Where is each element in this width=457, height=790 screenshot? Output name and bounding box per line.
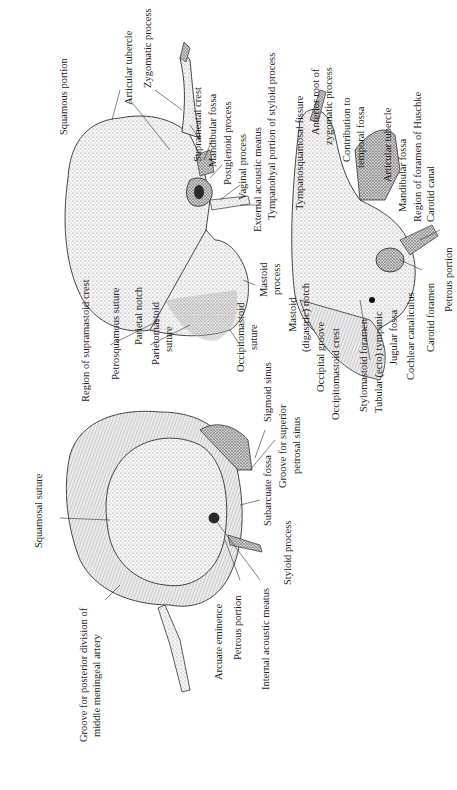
label-suprameatal-crest: Suprameatal crest xyxy=(192,87,203,162)
label-articular-tubercle-inferior: Articular tubercle xyxy=(382,108,393,182)
label-parietal-notch: Parietal notch xyxy=(133,287,144,345)
label-parietomastoid-suture-2: suture xyxy=(163,326,174,352)
label-external-acoustic-meatus: External acoustic meatus xyxy=(252,127,263,232)
label-groove-superior-petrosal-2: petrosal sinus xyxy=(291,417,302,474)
label-region-foramen-huschke: Region of foramen of Huschke xyxy=(412,92,423,222)
label-anterior-root-2: zygomatic process xyxy=(323,67,334,145)
label-petrous-portion-inferior: Petrous portion xyxy=(443,248,454,312)
label-arcuate-eminence: Arcuate eminence xyxy=(213,604,224,680)
label-groove-mma-1: Groove for posterior division of xyxy=(78,608,89,742)
label-vaginal-process: Vaginal process xyxy=(237,134,248,200)
label-anterior-root-1: Anterior root of xyxy=(310,69,321,135)
label-mandibular-fossa: Mandibular fossa xyxy=(207,94,218,167)
label-articular-tubercle: Articular tubercle xyxy=(123,31,134,105)
label-contribution-1: Contribution to xyxy=(341,98,352,162)
label-tubular-tympanic: Tubular (ecto) tympanic xyxy=(373,311,384,413)
label-zygomatic-process: Zygomatic process xyxy=(142,8,153,88)
label-occipitomastoid-suture-1: Occipitomastoid xyxy=(235,303,246,372)
label-parietomastoid-suture-1: Parietomastoid xyxy=(150,302,161,365)
label-internal-acoustic-meatus: Internal acoustic meatus xyxy=(260,588,271,690)
label-squamosal-suture: Squamosal suture xyxy=(33,474,44,548)
label-carotid-foramen: Carotid foramen xyxy=(425,283,436,352)
label-styloid-process: Styloid process xyxy=(282,521,293,585)
label-occipitomastoid-suture-2: suture xyxy=(248,324,259,350)
label-occipitomastoid-crest: Occipitomastoid crest xyxy=(330,328,341,420)
label-mastoid-notch-2: (digastric) notch xyxy=(300,283,311,352)
label-petrosquamous-suture: Petrosquamous suture xyxy=(110,288,121,380)
label-subarcuate-fossa: Subarcuate fossa xyxy=(262,455,273,526)
label-mandibular-fossa-inferior: Mandibular fossa xyxy=(397,139,408,212)
label-petrous-portion-medial: Petrous portion xyxy=(232,596,243,660)
label-mastoid-process-2: process xyxy=(271,264,282,296)
label-contribution-2: temporal fossa xyxy=(355,106,366,168)
lateral-view xyxy=(65,42,250,341)
label-groove-superior-petrosal-1: Groove for superior xyxy=(277,405,288,488)
label-region-supramastoid-crest: Region of supramastoid crest xyxy=(80,279,91,402)
label-postglenoid-process: Postglenoid process xyxy=(222,101,233,185)
label-stylomastoid-foramen: Stylomastoid foramen xyxy=(358,319,369,412)
label-occipital-groove: Occipital groove xyxy=(315,322,326,392)
label-mastoid-notch-1: Mastoid xyxy=(287,298,298,332)
label-groove-mma-2: middle meningeal artery xyxy=(91,634,102,737)
label-tympanosquamosal-fissure: Tympanosquamosal fissure xyxy=(294,96,305,210)
label-mastoid-process-1: Mastoid xyxy=(258,263,269,297)
label-jugular-fossa: Jugular fossa xyxy=(388,310,399,365)
anatomical-figure: Squamous portion Articular tubercle Zygo… xyxy=(0,0,457,790)
label-tympanohyal-portion: Tympanohyal portion of styloid process xyxy=(266,53,277,220)
label-sigmoid-sinus: Sigmoid sinus xyxy=(262,362,273,422)
label-carotid-canal: Carotid canal xyxy=(425,166,436,222)
label-squamous-portion: Squamous portion xyxy=(58,58,69,135)
label-cochlear-canaliculus: Cochlear canaliculus xyxy=(405,292,416,380)
